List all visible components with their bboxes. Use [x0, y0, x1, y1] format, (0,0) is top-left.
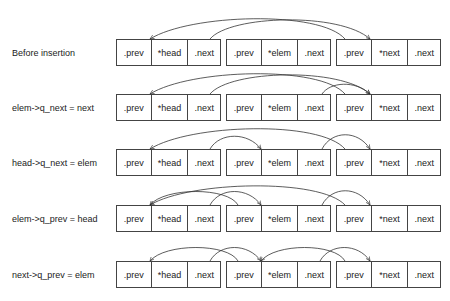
field-next-pointer: *next	[371, 40, 408, 65]
node-elem: .prev *elem .next	[226, 261, 331, 288]
field-next: .next	[297, 262, 330, 287]
field-next: .next	[187, 206, 220, 231]
field-head-pointer: *head	[151, 95, 188, 120]
arrow-head-next-to-elem	[210, 248, 261, 262]
node-head: .prev *head .next	[116, 39, 221, 66]
arrow-elem-next-to-next	[320, 248, 370, 262]
field-prev: .prev	[337, 262, 371, 287]
node-head: .prev *head .next	[116, 205, 221, 232]
arrow-elem-next-to-next	[322, 84, 370, 94]
field-head-pointer: *head	[151, 206, 188, 231]
field-next: .next	[187, 95, 220, 120]
arrow-head-next-to-next	[210, 20, 370, 39]
field-prev: .prev	[337, 40, 371, 65]
arrow-head-next-to-elem	[210, 136, 261, 149]
arrow-next-prev-to-head	[150, 186, 345, 205]
field-prev: .prev	[337, 150, 371, 175]
row-label-step-2: head->q_next = elem	[12, 157, 97, 169]
node-head: .prev *head .next	[116, 261, 221, 288]
node-elem: .prev *elem .next	[226, 39, 331, 66]
node-head: .prev *head .next	[116, 94, 221, 121]
field-elem-pointer: *elem	[261, 262, 298, 287]
field-next-pointer: *next	[371, 95, 408, 120]
field-next: .next	[297, 150, 330, 175]
field-head-pointer: *head	[151, 40, 188, 65]
field-next: .next	[407, 262, 440, 287]
field-head-pointer: *head	[151, 262, 188, 287]
arrow-next-prev-to-head	[150, 74, 345, 94]
field-elem-pointer: *elem	[261, 150, 298, 175]
node-next: .prev *next .next	[336, 149, 441, 176]
field-next: .next	[187, 40, 220, 65]
node-elem: .prev *elem .next	[226, 94, 331, 121]
field-prev: .prev	[117, 95, 151, 120]
arrow-elem-prev-to-head	[150, 248, 238, 262]
field-elem-pointer: *elem	[261, 40, 298, 65]
field-head-pointer: *head	[151, 150, 188, 175]
field-next-pointer: *next	[371, 150, 408, 175]
arrow-elem-next-to-next	[322, 191, 370, 205]
field-next-pointer: *next	[371, 206, 408, 231]
arrow-head-next-to-elem	[210, 192, 261, 206]
field-prev: .prev	[227, 206, 261, 231]
field-prev: .prev	[117, 206, 151, 231]
node-elem: .prev *elem .next	[226, 205, 331, 232]
row-label-step-3: elem->q_prev = head	[12, 213, 98, 225]
arrow-head-next-to-next	[210, 75, 370, 94]
arrow-next-prev-to-head	[150, 129, 345, 149]
node-elem: .prev *elem .next	[226, 149, 331, 176]
arrow-elem-prev-to-head	[150, 192, 238, 206]
node-head: .prev *head .next	[116, 149, 221, 176]
arrow-next-prev-to-elem	[261, 248, 345, 262]
field-prev: .prev	[337, 95, 371, 120]
arrow-next-prev-to-head	[150, 19, 345, 39]
field-prev: .prev	[117, 40, 151, 65]
field-next: .next	[297, 206, 330, 231]
field-elem-pointer: *elem	[261, 95, 298, 120]
field-elem-pointer: *elem	[261, 206, 298, 231]
field-next: .next	[407, 150, 440, 175]
field-next: .next	[297, 95, 330, 120]
field-prev: .prev	[117, 150, 151, 175]
node-next: .prev *next .next	[336, 94, 441, 121]
arrow-elem-next-to-next	[322, 135, 370, 149]
node-next: .prev *next .next	[336, 39, 441, 66]
field-next-pointer: *next	[371, 262, 408, 287]
node-next: .prev *next .next	[336, 261, 441, 288]
field-next: .next	[187, 150, 220, 175]
field-prev: .prev	[227, 95, 261, 120]
field-next: .next	[407, 40, 440, 65]
row-label-before-insertion: Before insertion	[12, 47, 75, 59]
field-next: .next	[407, 95, 440, 120]
row-label-step-4: next->q_prev = elem	[12, 269, 95, 281]
field-next: .next	[187, 262, 220, 287]
field-next: .next	[297, 40, 330, 65]
field-next: .next	[407, 206, 440, 231]
field-prev: .prev	[227, 40, 261, 65]
row-label-step-1: elem->q_next = next	[12, 102, 94, 114]
field-prev: .prev	[227, 150, 261, 175]
node-next: .prev *next .next	[336, 205, 441, 232]
field-prev: .prev	[227, 262, 261, 287]
field-prev: .prev	[117, 262, 151, 287]
field-prev: .prev	[337, 206, 371, 231]
